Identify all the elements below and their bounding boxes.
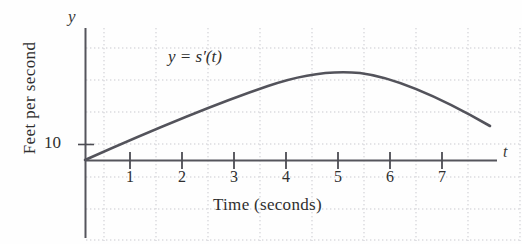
x-tick-label: 1 (120, 168, 140, 186)
x-tick-label: 5 (328, 168, 348, 186)
t-axis-symbol: t (503, 143, 507, 161)
y-axis-tick-label: 10 (44, 133, 61, 153)
x-axis-title: Time (seconds) (213, 195, 322, 215)
x-tick-label: 7 (432, 168, 452, 186)
graph-figure: y t 10 Feet per second Time (seconds) y … (0, 0, 522, 244)
x-tick-label: 2 (172, 168, 192, 186)
y-axis-title: Feet per second (20, 8, 40, 188)
x-tick-label: 4 (276, 168, 296, 186)
derivative-curve (85, 72, 490, 160)
y-axis-title-text: Feet per second (20, 42, 39, 155)
curve-equation-label: y = s′(t) (168, 47, 222, 67)
y-axis-symbol: y (68, 7, 76, 27)
x-tick-label: 6 (380, 168, 400, 186)
x-tick-label: 3 (224, 168, 244, 186)
